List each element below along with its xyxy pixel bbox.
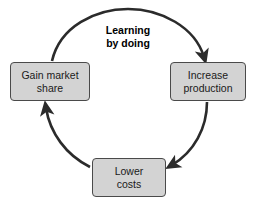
page-title: Learning by doing	[78, 24, 178, 49]
node-lower-costs-label: Lower costs	[112, 165, 147, 191]
node-gain-market-share-label: Gain market share	[18, 69, 81, 95]
node-increase-production[interactable]: Increase production	[170, 62, 246, 101]
node-gain-market-share[interactable]: Gain market share	[10, 62, 90, 101]
node-increase-production-label: Increase production	[180, 69, 235, 95]
node-lower-costs[interactable]: Lower costs	[92, 158, 166, 197]
arrow-lower-to-gain	[46, 108, 90, 167]
learning-by-doing-diagram: Learning by doing Gain market share Incr…	[0, 0, 257, 207]
arrow-increase-to-lower	[172, 102, 207, 165]
